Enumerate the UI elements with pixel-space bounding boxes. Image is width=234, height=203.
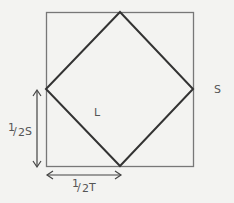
square-label: S [214,83,221,96]
diagram-canvas: L S 1 / 2 S 1 / 2 T [0,0,234,203]
inner-diamond [46,12,193,166]
horizontal-dimension-label: 1 / 2 T [72,177,96,195]
vertical-dimension-arrow [33,90,41,167]
outer-square [47,13,194,167]
diamond-label: L [94,106,101,119]
svg-text:T: T [88,181,96,194]
horizontal-dimension-arrow [47,171,121,179]
svg-text:/: / [13,125,17,138]
vertical-dimension-label: 1 / 2 S [8,121,32,139]
svg-text:/: / [77,181,81,194]
svg-text:2: 2 [18,126,25,139]
svg-text:S: S [25,125,32,138]
svg-text:2: 2 [82,182,89,195]
